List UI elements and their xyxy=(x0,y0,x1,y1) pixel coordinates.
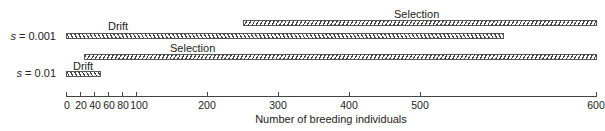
row-label-value: = 0.001 xyxy=(19,30,56,42)
x-tick xyxy=(207,92,208,96)
x-tick-label: 60 xyxy=(103,99,115,111)
x-tick xyxy=(122,92,123,96)
x-tick-label: 600 xyxy=(587,99,605,111)
x-tick-label: 80 xyxy=(117,99,129,111)
x-axis-line xyxy=(66,96,597,97)
bar-label-selection: Selection xyxy=(394,8,439,20)
bar-label-drift: Drift xyxy=(108,20,128,32)
x-tick xyxy=(136,92,137,96)
row-label-var: s xyxy=(10,30,16,42)
bar-label-selection: Selection xyxy=(170,42,215,54)
x-tick xyxy=(349,92,350,96)
row-label-s0001: s = 0.001 xyxy=(0,30,56,42)
row-label-var: s xyxy=(17,67,23,79)
x-tick-label: 300 xyxy=(269,99,287,111)
bar-selection-s001 xyxy=(84,54,597,60)
x-tick xyxy=(66,92,67,96)
x-tick xyxy=(596,92,597,96)
x-tick-label: 200 xyxy=(198,99,216,111)
x-tick-label: 0 xyxy=(64,99,70,111)
x-tick xyxy=(420,92,421,96)
row-label-value: = 0.01 xyxy=(25,67,56,79)
x-tick-label: 40 xyxy=(89,99,101,111)
x-tick xyxy=(108,92,109,96)
bar-selection-s0001 xyxy=(243,20,597,26)
row-label-s001: s = 0.01 xyxy=(0,67,56,79)
bar-drift-s0001 xyxy=(66,33,504,39)
x-tick-label: 100 xyxy=(130,99,148,111)
x-tick-label: 400 xyxy=(340,99,358,111)
x-axis-title: Number of breeding individuals xyxy=(255,113,407,125)
x-tick-label: 20 xyxy=(75,99,87,111)
x-tick xyxy=(94,92,95,96)
x-tick xyxy=(278,92,279,96)
x-tick-label: 500 xyxy=(411,99,429,111)
bar-drift-s001 xyxy=(66,71,101,77)
x-tick xyxy=(80,92,81,96)
